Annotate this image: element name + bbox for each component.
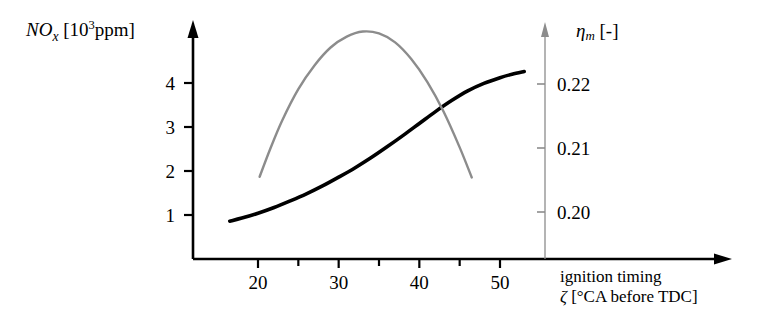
y-axis-left-title: NOx [103ppm] bbox=[26, 20, 135, 39]
series-layer bbox=[230, 31, 524, 221]
x-axis-title-unit: [°CA before TDC] bbox=[567, 287, 698, 306]
x-axis-title-symbol: ζ bbox=[560, 287, 567, 306]
x-axis-tick-label: 30 bbox=[319, 272, 359, 294]
y-axis-left-symbol: NO bbox=[26, 19, 52, 40]
y-axis-left-tick-label: 2 bbox=[147, 161, 175, 183]
y-axis-right-unit: [-] bbox=[595, 20, 619, 41]
y-axis-left-unit-open: [10 bbox=[58, 19, 88, 40]
chart-figure: NOx [103ppm] ηm [-] ignition timing ζ [°… bbox=[0, 0, 759, 329]
y-axis-right-tick-label: 0.20 bbox=[557, 202, 590, 224]
y-axis-right-title: ηm [-] bbox=[576, 21, 619, 40]
data-series-eta-m bbox=[260, 31, 472, 177]
y-axis-left-tick-label: 4 bbox=[147, 73, 175, 95]
x-axis-title: ignition timing ζ [°CA before TDC] bbox=[560, 268, 698, 305]
x-axis-title-line1: ignition timing bbox=[560, 268, 698, 285]
data-series-nox bbox=[230, 72, 524, 222]
x-axis-arrowhead bbox=[714, 254, 732, 265]
y-axis-left-tick-label: 3 bbox=[147, 117, 175, 139]
x-axis-tick-label: 20 bbox=[238, 272, 278, 294]
x-axis-tick-label: 50 bbox=[480, 272, 520, 294]
y-axis-left-unit-close: ppm] bbox=[95, 19, 135, 40]
y-axis-right-arrowhead bbox=[541, 22, 549, 37]
y-axis-right-subscript: m bbox=[585, 28, 594, 43]
y-axis-right-tick-label: 0.21 bbox=[557, 138, 590, 160]
y-axis-right-tick-label: 0.22 bbox=[557, 74, 590, 96]
x-axis-title-line2: ζ [°CA before TDC] bbox=[560, 288, 698, 305]
y-axis-left-tick-label: 1 bbox=[147, 205, 175, 227]
y-axis-left-arrowhead bbox=[188, 20, 199, 38]
x-axis-tick-label: 40 bbox=[399, 272, 439, 294]
